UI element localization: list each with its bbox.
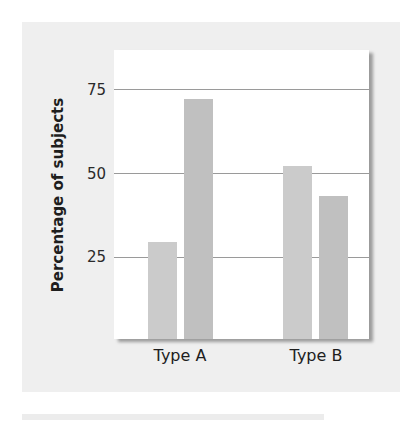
gridline-50: [114, 173, 369, 174]
bar-type-b-series-1: [283, 166, 312, 339]
gridline-75: [114, 89, 369, 90]
bar-type-b-series-2: [319, 196, 348, 339]
y-tick-50: 50: [66, 166, 106, 182]
y-tick-75: 75: [66, 82, 106, 98]
x-category-type-b: Type B: [266, 346, 366, 365]
y-axis-label: Percentage of subjects: [49, 98, 67, 292]
y-tick-25: 25: [66, 249, 106, 265]
bar-type-a-series-2: [184, 99, 213, 339]
x-category-type-a: Type A: [130, 346, 230, 365]
caption-strip: [22, 414, 324, 420]
bar-type-a-series-1: [148, 242, 177, 339]
plot-area: [114, 50, 369, 339]
chart-figure: Percentage of subjects 75 50 25 Type A T…: [0, 0, 410, 427]
